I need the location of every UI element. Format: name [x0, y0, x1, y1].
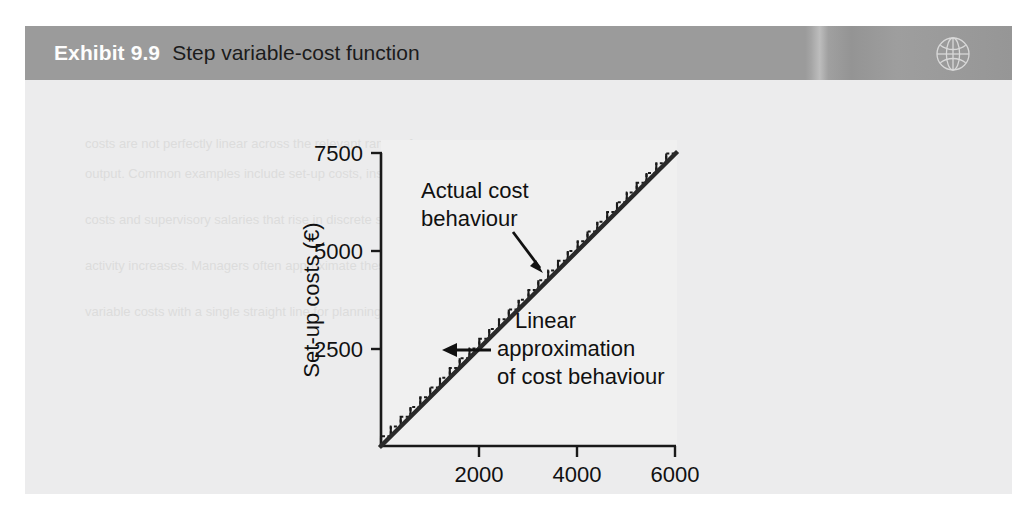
- exhibit-title: Step variable-cost function: [172, 41, 419, 65]
- chart-container: 7500 5000 2500 2000 4000 6000 Cost drive…: [25, 80, 1012, 494]
- exhibit-number-label: Exhibit 9.9: [54, 41, 160, 65]
- page-root: costs are not perfectly linear across th…: [0, 0, 1035, 529]
- exhibit-figure-panel: costs are not perfectly linear across th…: [25, 26, 1012, 494]
- annotation-linear-line1: Linear: [515, 308, 576, 333]
- annotation-linear-line3: of cost behaviour: [497, 364, 665, 389]
- x-tick-label-6000: 6000: [651, 462, 700, 487]
- step-variable-cost-chart: 7500 5000 2500 2000 4000 6000 Cost drive…: [25, 80, 1012, 494]
- globe-icon: [932, 33, 974, 75]
- y-axis-title: Set-up costs (€): [299, 222, 324, 377]
- annotation-actual-cost-line2: behaviour: [421, 206, 518, 231]
- x-tick-label-4000: 4000: [553, 462, 602, 487]
- x-axis-title: Cost driver: units of production: [384, 492, 682, 494]
- x-tick-label-2000: 2000: [455, 462, 504, 487]
- y-tick-label-7500: 7500: [314, 141, 363, 166]
- exhibit-header-bar: Exhibit 9.9 Step variable-cost function: [25, 26, 1012, 80]
- annotation-actual-cost-line1: Actual cost: [421, 178, 529, 203]
- annotation-linear-line2: approximation: [497, 336, 635, 361]
